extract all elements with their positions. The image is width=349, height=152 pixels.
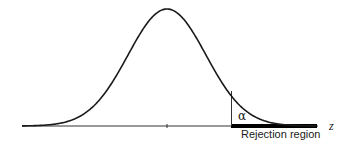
normal-distribution-figure: α Rejection region z [0, 0, 349, 152]
alpha-label: α [238, 109, 246, 123]
z-axis-label: z [329, 119, 334, 134]
rejection-region-label: Rejection region [241, 128, 321, 140]
normal-curve [22, 9, 316, 126]
